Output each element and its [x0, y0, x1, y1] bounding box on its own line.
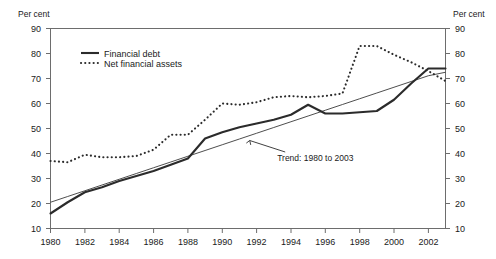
y-axis-left: 90 80 70 60 50 40 30 20 10	[31, 24, 51, 234]
y-tick-label-right-90: 90	[455, 24, 465, 34]
x-tick-label-1980: 1980	[40, 237, 60, 247]
x-axis: 1980 1982 1984 1986 1988 1990 1992 1994 …	[40, 229, 438, 248]
x-tick-label-1998: 1998	[350, 237, 370, 247]
y-tick-group	[46, 29, 51, 229]
series-group	[51, 46, 446, 214]
x-tick-label-2000: 2000	[384, 237, 404, 247]
y-tick-label-90: 90	[31, 24, 41, 34]
trend-annotation: Trend: 1980 to 2003	[246, 141, 353, 164]
y-tick-label-70: 70	[31, 74, 41, 84]
annotation-arrow-icon	[246, 141, 285, 153]
x-tick-label-2002: 2002	[418, 237, 438, 247]
y-tick-label-right-40: 40	[455, 149, 465, 159]
x-tick-label-1988: 1988	[178, 237, 198, 247]
y-tick-label-50: 50	[31, 124, 41, 134]
x-tick-label-1996: 1996	[315, 237, 335, 247]
y-tick-label-right-30: 30	[455, 174, 465, 184]
y-tick-label-20: 20	[31, 199, 41, 209]
x-tick-group	[51, 229, 429, 234]
legend-label-financial-debt: Financial debt	[104, 49, 161, 59]
right-axis-unit-label: Per cent	[453, 9, 485, 19]
y-tick-label-10: 10	[31, 224, 41, 234]
annotation-label: Trend: 1980 to 2003	[277, 153, 354, 163]
y-tick-label-40: 40	[31, 149, 41, 159]
y-tick-label-80: 80	[31, 49, 41, 59]
y-tick-label-right-10: 10	[455, 224, 465, 234]
series-trend-line	[51, 72, 446, 202]
y-tick-label-right-50: 50	[455, 124, 465, 134]
chart-legend: Financial debt Net financial assets	[81, 49, 183, 69]
chart-figure: Per cent Per cent 90 80 70 60 50 40	[0, 0, 496, 259]
x-tick-label-1982: 1982	[75, 237, 95, 247]
x-tick-label-1986: 1986	[144, 237, 164, 247]
y-tick-label-60: 60	[31, 99, 41, 109]
x-tick-label-1992: 1992	[247, 237, 267, 247]
x-tick-label-1990: 1990	[212, 237, 232, 247]
y-tick-label-right-20: 20	[455, 199, 465, 209]
x-tick-label-1994: 1994	[281, 237, 301, 247]
y-tick-group-right	[446, 29, 451, 229]
chart-svg: Per cent Per cent 90 80 70 60 50 40	[0, 0, 496, 259]
left-axis-unit-label: Per cent	[18, 9, 50, 19]
y-tick-label-right-80: 80	[455, 49, 465, 59]
legend-label-net-financial-assets: Net financial assets	[104, 59, 183, 69]
y-tick-label-right-60: 60	[455, 99, 465, 109]
y-tick-label-30: 30	[31, 174, 41, 184]
y-tick-label-right-70: 70	[455, 74, 465, 84]
x-tick-label-1984: 1984	[109, 237, 129, 247]
y-axis-right: 90 80 70 60 50 40 30 20 10	[446, 24, 466, 234]
